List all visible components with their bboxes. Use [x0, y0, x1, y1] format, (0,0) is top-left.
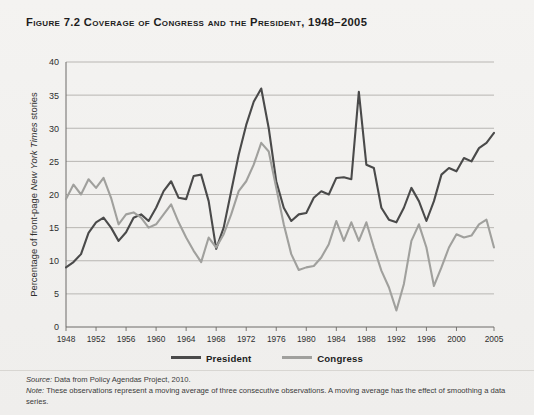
x-tick-1964: 1964	[177, 334, 196, 344]
x-tick-1960: 1960	[147, 334, 166, 344]
legend-swatch-president	[171, 356, 201, 359]
legend-label-president: President	[206, 353, 252, 364]
x-tick-1968: 1968	[207, 334, 226, 344]
gridlines	[66, 62, 494, 294]
line-chart: 0510152025303540 19481952195619601964196…	[26, 46, 506, 346]
footer-divider	[0, 370, 534, 371]
legend-item-congress[interactable]: Congress	[282, 352, 363, 364]
y-tick-35: 35	[49, 91, 59, 101]
figure-container: Figure 7.2 Coverage of Congress and the …	[0, 0, 534, 415]
y-tick-30: 30	[49, 124, 59, 134]
data-series-group	[66, 89, 494, 311]
source-label: Source:	[26, 375, 52, 384]
x-axis-tick-labels: 1948195219561960196419681972197619801984…	[57, 334, 504, 344]
x-tick-1956: 1956	[117, 334, 136, 344]
source-line: Source: Data from Policy Agendas Project…	[26, 374, 512, 385]
x-axis-tickmarks	[66, 327, 494, 331]
y-tick-10: 10	[49, 256, 59, 266]
x-tick-1992: 1992	[387, 334, 406, 344]
chart-plot-area: 0510152025303540 19481952195619601964196…	[26, 46, 506, 346]
chart-legend: President Congress	[0, 352, 534, 364]
x-tick-1972: 1972	[237, 334, 256, 344]
x-tick-2000: 2000	[447, 334, 466, 344]
x-tick-1976: 1976	[267, 334, 286, 344]
figure-notes: Source: Data from Policy Agendas Project…	[26, 374, 512, 407]
x-tick-1996: 1996	[417, 334, 436, 344]
y-tick-5: 5	[54, 289, 59, 299]
y-tick-0: 0	[54, 322, 59, 332]
y-tick-40: 40	[49, 57, 59, 67]
figure-title: Figure 7.2 Coverage of Congress and the …	[26, 16, 496, 28]
y-tick-25: 25	[49, 157, 59, 167]
note-label: Note:	[26, 386, 44, 395]
x-tick-1952: 1952	[87, 334, 106, 344]
source-text: Data from Policy Agendas Project, 2010.	[52, 375, 190, 384]
legend-label-congress: Congress	[317, 353, 363, 364]
x-tick-1988: 1988	[357, 334, 376, 344]
y-tick-15: 15	[49, 223, 59, 233]
note-text: These observations represent a moving av…	[26, 386, 505, 406]
legend-swatch-congress	[282, 356, 312, 359]
series-line-congress	[66, 143, 494, 311]
note-line: Note: These observations represent a mov…	[26, 385, 512, 407]
legend-item-president[interactable]: President	[171, 352, 252, 364]
series-line-president	[66, 89, 494, 268]
x-tick-1980: 1980	[297, 334, 316, 344]
y-axis-label: Percentage of front-page New York Times …	[28, 92, 39, 297]
figure-title-text: Figure 7.2 Coverage of Congress and the …	[26, 16, 367, 28]
x-tick-1948: 1948	[57, 334, 76, 344]
x-tick-1984: 1984	[327, 334, 346, 344]
y-tick-20: 20	[49, 190, 59, 200]
y-axis-tick-labels: 0510152025303540	[49, 57, 59, 332]
x-tick-2005: 2005	[485, 334, 504, 344]
